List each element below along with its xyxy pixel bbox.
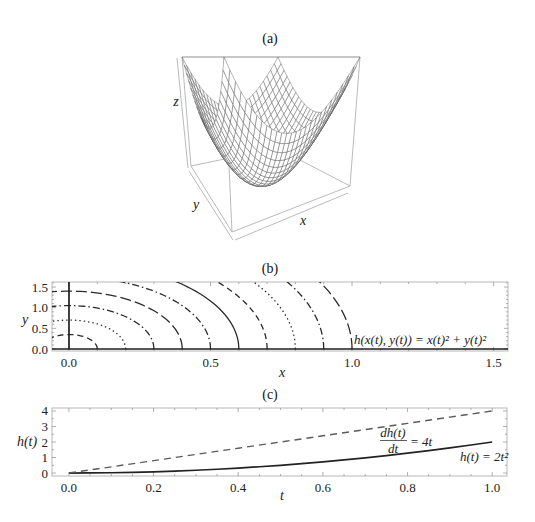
figure: (a) z y x (b) 0.00.51.01.5 0.00.51.01.5 … xyxy=(0,0,535,522)
x-tick-label: 1.0 xyxy=(484,480,500,495)
x-axis-label: x xyxy=(299,213,307,228)
panel-b: (b) 0.00.51.01.5 0.00.51.01.5 h(x(t), y(… xyxy=(0,204,508,380)
y-axis-label: y xyxy=(191,197,200,212)
z-axis-label: z xyxy=(172,94,179,109)
x-tick-label: 0.8 xyxy=(399,480,415,495)
x-axis-line xyxy=(235,193,348,240)
contour-line xyxy=(0,219,324,349)
function-annotation: h(t) = 2t² xyxy=(460,449,509,464)
x-tick-label: 0.6 xyxy=(315,480,332,495)
panel-c-plot: 0.00.20.40.60.81.0 01234 xyxy=(42,403,508,495)
panel-c: (c) 0.00.20.40.60.81.0 01234 dh(t) dt = … xyxy=(17,387,509,503)
x-tick-label: 1.5 xyxy=(485,355,501,370)
y-tick-label: 0.0 xyxy=(32,342,48,357)
box-edge xyxy=(232,186,350,232)
panel-a-title: (a) xyxy=(262,31,278,47)
panel-a: (a) z y x xyxy=(172,31,360,240)
x-tick-label: 0.2 xyxy=(145,480,161,495)
x-axis-label: t xyxy=(280,488,285,503)
x-axis-label: x xyxy=(278,365,286,380)
y-tick-label: 1.5 xyxy=(32,280,48,295)
y-tick-label: 2 xyxy=(42,435,49,450)
y-tick-labels: 0.00.51.01.5 xyxy=(32,280,48,357)
surface-mesh xyxy=(182,57,360,187)
panel-c-title: (c) xyxy=(262,387,278,403)
panel-b-title: (b) xyxy=(262,261,279,277)
y-tick-label: 1.0 xyxy=(32,300,48,315)
x-tick-label: 0.0 xyxy=(61,355,77,370)
y-tick-label: 0 xyxy=(42,466,49,481)
y-tick-labels: 01234 xyxy=(42,403,49,480)
y-tick-label: 0.5 xyxy=(32,321,48,336)
fraction-rhs: = 4t xyxy=(410,434,433,449)
x-tick-label: 0.4 xyxy=(230,480,247,495)
x-tick-label: 1.0 xyxy=(344,355,360,370)
y-tick-label: 3 xyxy=(42,419,49,434)
contour-annotation: h(x(t), y(t)) = x(t)² + y(t)² xyxy=(354,332,487,347)
y-axis-label: h(t) xyxy=(17,434,38,450)
y-axis-label: y xyxy=(20,312,29,327)
y-tick-label: 1 xyxy=(42,450,49,465)
fraction-numerator: dh(t) xyxy=(380,425,405,440)
x-tick-label: 0.5 xyxy=(202,355,218,370)
y-tick-label: 4 xyxy=(42,403,49,418)
mesh-facet xyxy=(345,67,354,86)
panel-a-plot xyxy=(177,57,360,240)
fraction-denominator: dt xyxy=(388,441,399,456)
x-tick-label: 0.0 xyxy=(61,480,77,495)
